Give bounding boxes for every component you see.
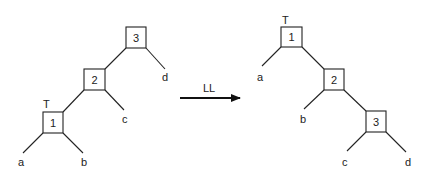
node-2: 2 (84, 69, 105, 90)
edge-2-1 (63, 90, 84, 112)
node-2-label: 2 (91, 74, 97, 86)
node-1: 1 (43, 112, 63, 133)
edge-1-2 (302, 47, 324, 69)
edge-3-2 (105, 48, 126, 69)
edge-2-b (304, 90, 324, 109)
root-marker-T: T (43, 98, 50, 110)
leaf-c: c (342, 156, 348, 168)
edge-1-b (63, 133, 83, 153)
rotation-diagram: 3 2 1 T d c a b LL 1 (0, 0, 434, 181)
node-3: 3 (126, 27, 146, 48)
edge-2-3 (344, 90, 366, 111)
node-3-label: 3 (133, 32, 139, 44)
edge-2-c (105, 90, 124, 110)
leaf-d: d (405, 156, 411, 168)
node-2-label: 2 (331, 74, 337, 86)
leaf-b: b (300, 113, 306, 125)
leaf-a: a (257, 71, 264, 83)
transform-label: LL (203, 82, 215, 94)
leaf-c: c (122, 113, 128, 125)
leaf-b: b (81, 156, 87, 168)
node-1-label: 1 (288, 31, 294, 43)
edge-3-d (386, 132, 406, 152)
tree-before: 3 2 1 T d c a b (18, 27, 168, 168)
leaf-d: d (162, 71, 168, 83)
node-2: 2 (324, 69, 344, 90)
transform-arrow: LL (180, 82, 240, 98)
edge-3-d (146, 48, 165, 69)
root-marker-T: T (282, 14, 289, 26)
leaf-a: a (18, 156, 25, 168)
edge-1-a (262, 47, 281, 66)
tree-after: 1 2 3 T a b c d (257, 14, 411, 168)
node-1-label: 1 (50, 117, 56, 129)
node-3-label: 3 (373, 116, 379, 128)
edge-3-c (347, 132, 366, 151)
node-1: 1 (281, 27, 302, 47)
node-3: 3 (366, 111, 386, 132)
edge-1-a (23, 133, 43, 153)
